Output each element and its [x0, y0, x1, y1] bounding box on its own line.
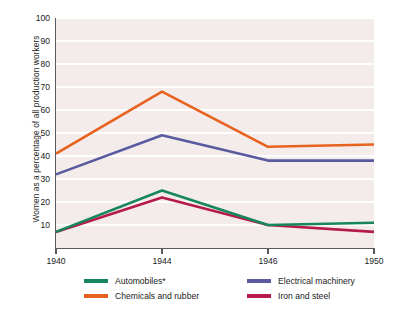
legend-label: Automobiles*: [115, 276, 166, 286]
y-tick-label: 20: [26, 198, 50, 207]
line-chart: Women as a percentage of all production …: [0, 0, 411, 311]
legend-item[interactable]: Chemicals and rubber: [84, 291, 199, 301]
plot-area: [56, 18, 374, 248]
legend-label: Chemicals and rubber: [115, 291, 199, 301]
y-tick-label: 100: [26, 14, 50, 23]
legend-item[interactable]: Automobiles*: [84, 276, 166, 286]
legend-swatch: [247, 294, 271, 297]
x-tick-mark: [161, 249, 162, 254]
y-tick-label: 80: [26, 60, 50, 69]
x-tick-mark: [55, 249, 56, 254]
series-line: [56, 135, 374, 174]
x-tick-label: 1946: [246, 256, 290, 266]
legend-item[interactable]: Iron and steel: [247, 291, 330, 301]
y-tick-label: 70: [26, 83, 50, 92]
series-lines: [56, 18, 374, 248]
y-tick-label: 40: [26, 152, 50, 161]
x-tick-mark: [267, 249, 268, 254]
y-tick-label: 30: [26, 175, 50, 184]
y-tick-label: 50: [26, 129, 50, 138]
x-tick-label: 1940: [34, 256, 78, 266]
x-tick-label: 1944: [140, 256, 184, 266]
legend-swatch: [84, 294, 108, 297]
legend-label: Electrical machinery: [278, 276, 355, 286]
y-tick-label: 10: [26, 221, 50, 230]
x-tick-label: 1950: [352, 256, 396, 266]
x-axis-line: [55, 248, 375, 249]
y-axis-tick-labels: 102030405060708090100: [26, 12, 50, 254]
y-axis-line: [55, 18, 56, 248]
chart-legend: Automobiles*Chemicals and rubberElectric…: [84, 276, 394, 306]
y-tick-label: 60: [26, 106, 50, 115]
x-tick-mark: [373, 249, 374, 254]
legend-swatch: [247, 279, 271, 282]
legend-label: Iron and steel: [278, 291, 330, 301]
legend-swatch: [84, 279, 108, 282]
series-line: [56, 92, 374, 154]
y-tick-label: 90: [26, 37, 50, 46]
legend-item[interactable]: Electrical machinery: [247, 276, 355, 286]
